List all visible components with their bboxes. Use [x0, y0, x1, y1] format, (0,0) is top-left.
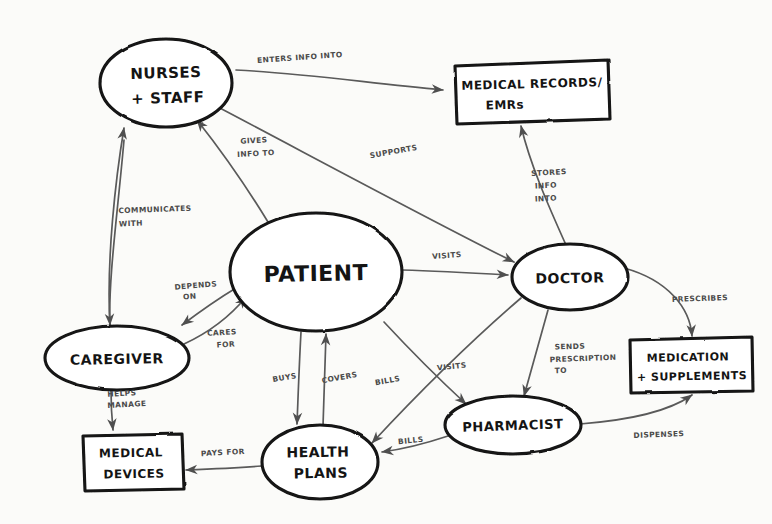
- diagram-canvas: NURSES + STAFF MEDICAL RECORDS/ EMRs PAT…: [0, 0, 772, 524]
- node-label-nurses-line2: + STAFF: [131, 88, 205, 108]
- edge-label-supports: SUPPORTS: [369, 143, 418, 160]
- node-medical-devices[interactable]: [83, 434, 184, 491]
- edge-label-gives-info-to-1: GIVES: [240, 135, 268, 145]
- edge-label-sends-prescription-to-2: PRESCRIPTION: [549, 353, 616, 364]
- edge-label-sends-prescription-to-3: TO: [555, 366, 568, 375]
- edge-label-stores-info-into-3: INTO: [535, 193, 558, 203]
- edge-patient-doctor: [402, 270, 508, 275]
- edge-label-enters-info-into: ENTERS INFO INTO: [257, 50, 343, 65]
- node-label-medication-line2: + SUPPLEMENTS: [637, 369, 747, 384]
- diagram-svg: NURSES + STAFF MEDICAL RECORDS/ EMRs PAT…: [0, 0, 772, 524]
- edge-patient-healthplans: [297, 332, 301, 424]
- node-label-medication-line1: MEDICATION: [647, 350, 730, 364]
- edge-label-buys: BUYS: [272, 371, 297, 384]
- edge-label-pays-for: PAYS FOR: [201, 447, 245, 458]
- edge-label-stores-info-into-1: STORES: [531, 167, 567, 178]
- node-health-plans[interactable]: [262, 425, 378, 499]
- node-nurses[interactable]: [100, 39, 232, 127]
- node-label-caregiver: CAREGIVER: [70, 350, 164, 368]
- edge-pharmacist-medication: [580, 395, 692, 424]
- edge-label-prescribes: PRESCRIBES: [672, 293, 728, 304]
- edge-label-sends-prescription-to-1: SENDS: [555, 341, 586, 351]
- edge-label-covers: COVERS: [321, 370, 358, 385]
- edge-label-helps-manage-1: HELPS: [107, 388, 137, 399]
- edge-label-helps-manage-2: MANAGE: [107, 399, 146, 410]
- node-medication[interactable]: [630, 337, 753, 393]
- node-label-devices-line2: DEVICES: [103, 466, 164, 481]
- edge-label-stores-info-into-2: INFO: [535, 180, 558, 190]
- edge-label-communicates-with-2: WITH: [119, 219, 143, 229]
- edge-label-dispenses: DISPENSES: [633, 429, 684, 440]
- node-label-patient: PATIENT: [263, 260, 368, 287]
- node-label-doctor: DOCTOR: [535, 269, 604, 286]
- edge-label-visits-doctor: VISITS: [432, 250, 462, 261]
- edge-label-communicates-with-1: COMMUNICATES: [118, 204, 191, 216]
- edge-nurses-records: [236, 70, 443, 90]
- edge-label-gives-info-to-2: INFO TO: [237, 148, 275, 159]
- edge-healthplans-devices: [186, 466, 262, 470]
- node-label-healthplans-line1: HEALTH: [286, 443, 349, 460]
- edge-label-depends-on-1: DEPENDS: [174, 279, 217, 292]
- node-label-nurses-line1: NURSES: [130, 63, 202, 83]
- edge-doctor-pharmacist: [524, 310, 548, 396]
- edge-label-depends-on-2: ON: [183, 291, 197, 301]
- edge-label-cares-for-1: CARES: [207, 327, 237, 338]
- node-label-devices-line1: MEDICAL: [99, 445, 163, 460]
- edge-label-bills-doctor: BILLS: [374, 374, 401, 387]
- edge-label-cares-for-2: FOR: [216, 340, 235, 350]
- edge-label-visits-pharmacist: VISITS: [436, 360, 466, 372]
- node-label-records-line2: EMRs: [485, 97, 524, 112]
- node-label-healthplans-line2: PLANS: [294, 465, 349, 482]
